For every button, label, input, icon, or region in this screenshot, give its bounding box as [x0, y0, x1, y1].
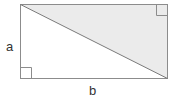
right-angle-marker-bottom-left-icon	[21, 68, 32, 79]
side-label-b: b	[89, 84, 96, 97]
geometry-diagram: a b	[0, 0, 179, 103]
side-label-a: a	[6, 40, 13, 53]
